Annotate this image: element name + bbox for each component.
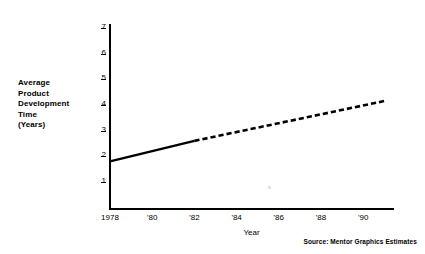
scan-artifact	[268, 186, 271, 189]
y-tick-mark	[101, 79, 106, 80]
y-tick-label: 3	[92, 125, 106, 134]
x-tick-label: '82	[189, 213, 199, 222]
y-tick-mark	[101, 182, 106, 183]
series-actual-line	[110, 141, 194, 162]
y-tick-mark	[101, 131, 106, 132]
x-tick-label: '86	[274, 213, 284, 222]
x-tick-label: '80	[147, 213, 157, 222]
x-axis-title: Year	[109, 228, 394, 237]
y-tick-mark	[101, 105, 106, 106]
y-tick-label: 7	[92, 22, 106, 31]
y-tick-label: 6	[92, 48, 106, 57]
y-tick-label: 5	[92, 73, 106, 82]
y-tick-mark	[101, 156, 106, 157]
y-axis-line	[109, 24, 111, 210]
chart-figure: Average Product Development Time (Years)…	[0, 0, 425, 254]
x-tick-label: '88	[316, 213, 326, 222]
source-note: Source: Mentor Graphics Estimates	[304, 238, 417, 245]
y-tick-mark	[101, 54, 106, 55]
y-tick-mark	[101, 28, 106, 29]
y-axis-title-line: Time	[18, 110, 88, 121]
y-axis-title-line: Product	[18, 89, 88, 100]
x-tick-label: 1978	[101, 213, 119, 222]
y-tick-label: 2	[92, 150, 106, 159]
x-axis-line	[109, 208, 394, 210]
y-axis-title-line: Average	[18, 78, 88, 89]
y-tick-label: 4	[92, 99, 106, 108]
x-tick-label: '84	[231, 213, 241, 222]
y-axis-title-line: Development	[18, 99, 88, 110]
y-axis-title-line: (Years)	[18, 120, 88, 131]
series-projected-line	[194, 101, 384, 141]
y-tick-label: 1	[92, 176, 106, 185]
x-tick-label: '90	[358, 213, 368, 222]
y-axis-title: Average Product Development Time (Years)	[18, 78, 88, 131]
